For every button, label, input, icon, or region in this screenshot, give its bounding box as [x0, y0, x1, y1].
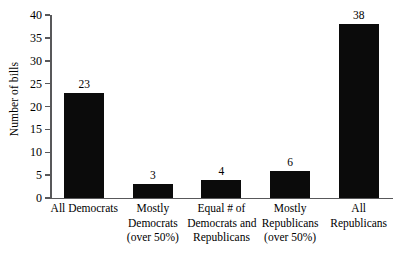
bar-value-label: 38 [353, 9, 365, 22]
x-axis-label-line: Mostly [256, 201, 325, 216]
y-axis-tick-label: 30 [30, 53, 42, 69]
x-axis-label: AllRepublicans [324, 201, 393, 230]
x-axis-label-line: (over 50%) [256, 230, 325, 245]
x-axis-labels: All DemocratsMostlyDemocrats(over 50%)Eq… [50, 201, 393, 257]
y-axis-title-text: Number of bills [8, 62, 20, 136]
y-axis-tick-label: 25 [30, 76, 42, 92]
x-axis-label: MostlyRepublicans(over 50%) [256, 201, 325, 245]
x-axis-label-line: Republicans [256, 216, 325, 231]
y-axis-tick-label: 40 [30, 7, 42, 23]
x-axis-label: MostlyDemocrats(over 50%) [119, 201, 188, 245]
bar-group[interactable]: 38 [324, 15, 393, 198]
y-axis-tick-label: 5 [36, 167, 42, 183]
y-axis-tick-label: 35 [30, 30, 42, 46]
x-axis-label: All Democrats [50, 201, 119, 216]
bar[interactable] [270, 171, 310, 198]
y-axis-tick-label: 0 [36, 190, 42, 206]
x-axis-label-line: Democrats and [187, 216, 256, 231]
bar[interactable] [201, 180, 241, 198]
x-axis-label-line: Mostly [119, 201, 188, 216]
x-axis-label-line: (over 50%) [119, 230, 188, 245]
x-axis-label: Equal # ofDemocrats andRepublicans [187, 201, 256, 245]
x-axis-label-line: All [324, 201, 393, 216]
bar-group[interactable]: 4 [187, 15, 256, 198]
x-axis-label-line: Democrats [119, 216, 188, 231]
bars-layer: 2334638 [50, 15, 393, 198]
y-axis-tick-label: 10 [30, 144, 42, 160]
bar-group[interactable]: 3 [119, 15, 188, 198]
bar-value-label: 3 [150, 169, 156, 182]
bar[interactable] [339, 24, 379, 198]
y-axis-tick-label: 20 [30, 99, 42, 115]
y-axis-tick-label: 15 [30, 121, 42, 137]
bar-value-label: 6 [287, 156, 293, 169]
bar[interactable] [64, 93, 104, 198]
bar-value-label: 23 [79, 78, 91, 91]
x-axis-label-line: Republicans [187, 230, 256, 245]
bar-group[interactable]: 6 [256, 15, 325, 198]
bar-chart: Number of bills 0510152025303540 2334638… [0, 0, 408, 258]
bar-group[interactable]: 23 [50, 15, 119, 198]
x-axis-label-line: All Democrats [50, 201, 119, 216]
x-axis-label-line: Equal # of [187, 201, 256, 216]
bar-value-label: 4 [219, 165, 225, 178]
y-axis-title: Number of bills [6, 0, 22, 198]
bar[interactable] [133, 184, 173, 198]
x-axis-label-line: Republicans [324, 216, 393, 231]
